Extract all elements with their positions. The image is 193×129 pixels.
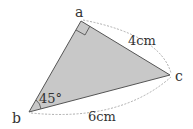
triangle-diagram: a b c 45° 4cm 6cm [0, 0, 193, 129]
side-label-ac: 4cm [128, 33, 156, 48]
vertex-label-a: a [75, 4, 83, 20]
vertex-label-b: b [12, 110, 21, 126]
vertex-label-c: c [175, 68, 183, 84]
angle-label-b: 45° [39, 91, 62, 106]
side-label-bc: 6cm [88, 109, 116, 124]
